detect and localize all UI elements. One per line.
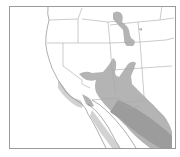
range-map <box>0 0 180 157</box>
